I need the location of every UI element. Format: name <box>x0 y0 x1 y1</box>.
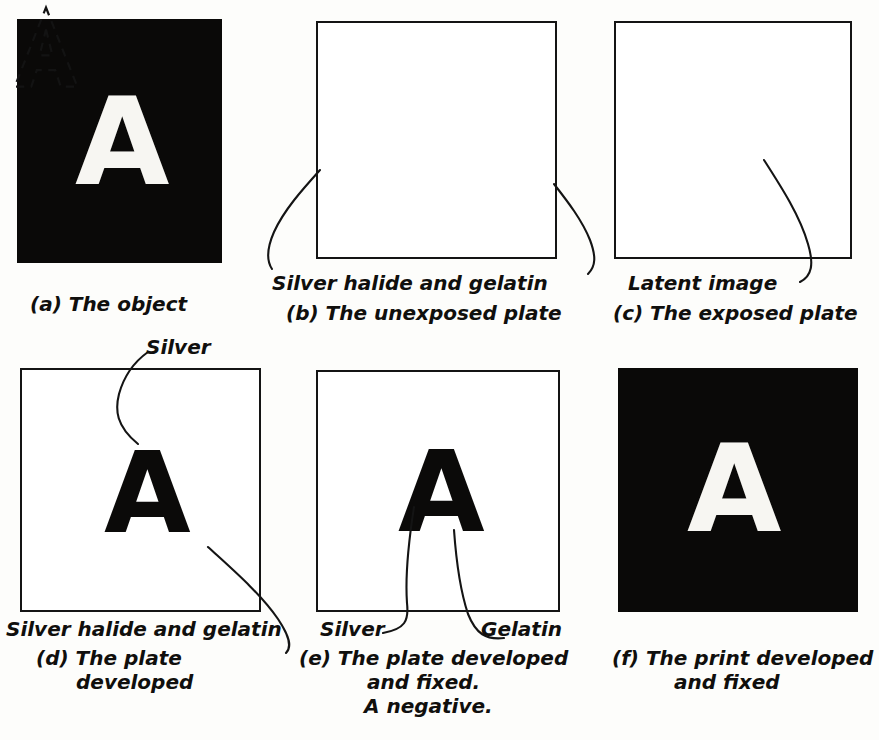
caption-panel-e-line3: A negative. <box>364 696 493 718</box>
annotation-e-silver: Silver <box>320 619 385 641</box>
caption-panel-e-line1: (e) The plate developed <box>299 648 568 670</box>
caption-panel-e-line2: and fixed. <box>367 672 480 694</box>
caption-panel-c: (c) The exposed plate <box>613 303 858 325</box>
caption-panel-d-line2: developed <box>76 672 193 694</box>
caption-panel-d-line1: (d) The plate <box>36 648 182 670</box>
annotation-c-latent-image: Latent image <box>628 273 777 295</box>
letter-a-print: A <box>687 428 781 550</box>
letter-a-latent-dashed <box>0 0 92 96</box>
panel-c: Latent image (c) The exposed plate <box>0 0 92 100</box>
annotation-d-silver: Silver <box>146 337 211 359</box>
letter-a-silver-d: A <box>104 437 191 549</box>
caption-panel-f-line1: (f) The print developed <box>612 648 873 670</box>
leader-line-c-latent <box>762 158 879 288</box>
caption-panel-a: (a) The object <box>30 294 187 316</box>
leader-line-b-left <box>262 168 382 278</box>
caption-panel-f-line2: and fixed <box>674 672 780 694</box>
annotation-b-emulsion: Silver halide and gelatin <box>272 273 548 295</box>
leader-line-d-silver <box>86 350 166 450</box>
caption-panel-b: (b) The unexposed plate <box>286 303 562 325</box>
plate-f-print: A <box>618 368 858 612</box>
annotation-d-emulsion: Silver halide and gelatin <box>6 619 282 641</box>
annotation-e-gelatin: Gelatin <box>481 619 562 641</box>
